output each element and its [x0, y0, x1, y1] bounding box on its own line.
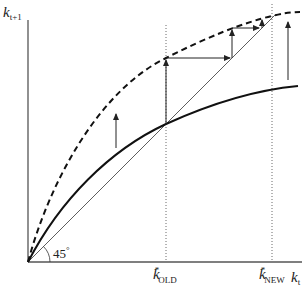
x-axis-label: kt	[291, 270, 300, 287]
angle-label: 45°	[53, 245, 70, 262]
old-capital-accumulation-curve	[28, 86, 298, 262]
y-axis-label: kt+1	[3, 5, 22, 22]
new-capital-accumulation-curve	[28, 12, 300, 262]
diagram-canvas	[0, 0, 308, 290]
45-degree-line	[28, 15, 275, 262]
k-old-label: k*OLD	[153, 266, 177, 285]
angle-arc	[44, 247, 51, 263]
k-new-label: k*NEW	[259, 266, 285, 285]
